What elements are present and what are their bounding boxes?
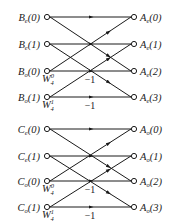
input-node <box>44 14 49 19</box>
output-label: Ae(1) <box>139 39 162 52</box>
negation-label: −1 <box>85 184 96 195</box>
twiddle-factor-label: W14 <box>42 98 55 112</box>
input-label: Co(1) <box>17 202 40 215</box>
output-node <box>131 178 136 183</box>
negation-label: −1 <box>85 100 96 111</box>
arrow-head-icon <box>108 59 109 60</box>
output-label: Ao(1) <box>139 151 162 164</box>
input-label: Ce(1) <box>18 151 41 164</box>
input-label: Ce(0) <box>18 124 41 137</box>
output-node <box>131 41 136 46</box>
twiddle-factor-label: W04 <box>42 72 55 86</box>
negation-label: −1 <box>85 74 96 85</box>
output-node <box>131 204 136 209</box>
output-label: Ao(2) <box>139 176 162 189</box>
arrow-head-icon <box>108 82 109 83</box>
arrow-head-icon <box>108 192 109 193</box>
output-node <box>131 126 136 131</box>
butterfly-block-1: Ce(0)Ce(1)Co(0)Co(1)Ao(0)Ao(1)Ao(2)Ao(3)… <box>17 124 162 222</box>
arrow-head-icon <box>108 170 109 171</box>
twiddle-factor-label: W14 <box>42 208 55 221</box>
output-node <box>131 68 136 73</box>
input-label: Be(1) <box>18 39 40 52</box>
input-label: Co(0) <box>17 176 40 189</box>
output-label: Ae(3) <box>139 92 162 105</box>
output-node <box>131 14 136 19</box>
arrow-head-icon <box>108 56 109 57</box>
input-label: Bo(0) <box>18 66 40 79</box>
input-label: Be(0) <box>18 12 40 25</box>
twiddle-factor-label: W04 <box>42 182 55 196</box>
output-node <box>131 94 136 99</box>
arrow-head-icon <box>108 32 109 33</box>
input-node <box>44 41 49 46</box>
fft-butterfly-diagram: Be(0)Be(1)Bo(0)Bo(1)Ae(0)Ae(1)Ae(2)Ae(3)… <box>0 0 172 221</box>
input-label: Bo(1) <box>18 92 40 105</box>
output-label: Ao(3) <box>139 202 162 215</box>
output-node <box>131 153 136 158</box>
arrow-head-icon <box>108 143 109 144</box>
butterfly-block-0: Be(0)Be(1)Bo(0)Bo(1)Ae(0)Ae(1)Ae(2)Ae(3)… <box>18 12 162 113</box>
output-label: Ao(0) <box>139 124 162 137</box>
input-node <box>44 153 49 158</box>
negation-label: −1 <box>85 210 96 221</box>
output-label: Ae(2) <box>139 66 162 79</box>
output-label: Ae(0) <box>139 12 162 25</box>
arrow-head-icon <box>108 166 109 167</box>
input-node <box>44 126 49 131</box>
